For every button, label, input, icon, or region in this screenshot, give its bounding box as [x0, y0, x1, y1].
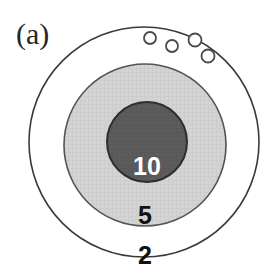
- panel-label: (a): [16, 17, 49, 51]
- figure-container: (a) 10 5 2: [0, 0, 276, 271]
- pore-circle-2: [166, 40, 178, 52]
- concentric-zone-diagram: (a) 10 5 2: [0, 0, 276, 271]
- pore-circle-3: [189, 34, 202, 47]
- middle-zone-label: 5: [138, 201, 152, 229]
- pore-circle-4: [202, 50, 215, 63]
- pore-circle-1: [144, 32, 156, 44]
- inner-zone-label: 10: [133, 152, 161, 180]
- outer-zone-label: 2: [138, 241, 152, 269]
